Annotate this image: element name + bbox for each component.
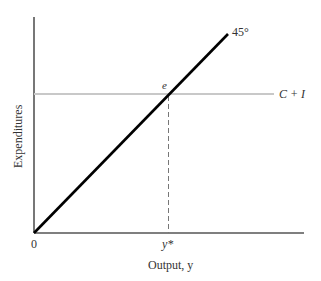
label-e: e [162,79,167,91]
chart: 45° C + I e y* 0 Output, y Expenditures [0,0,321,281]
y-axis-label: Expenditures [11,104,25,168]
x-axis-label: Output, y [148,258,193,272]
label-45: 45° [232,25,249,39]
label-origin: 0 [31,237,37,251]
label-ci: C + I [279,87,306,101]
label-ystar: y* [161,237,173,251]
line-45 [34,34,228,233]
